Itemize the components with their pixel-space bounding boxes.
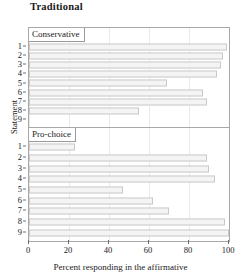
bar <box>29 218 225 225</box>
y-tick-label: 9 <box>18 115 22 124</box>
y-tick-mark <box>23 119 26 120</box>
y-tick-label: 4 <box>18 69 22 78</box>
x-tick-label: 20 <box>64 246 73 255</box>
y-tick-label: 2 <box>18 51 22 60</box>
bar <box>29 208 169 215</box>
y-tick-label: 9 <box>18 227 22 236</box>
strip-label-prochoice: Pro-choice <box>29 128 76 142</box>
bar <box>29 71 217 78</box>
bar-row <box>29 227 229 238</box>
bar <box>29 229 229 236</box>
y-tick-label: 8 <box>18 217 22 226</box>
x-tick-label: 80 <box>184 246 193 255</box>
x-tick-mark <box>148 240 149 244</box>
bar-row <box>29 116 229 125</box>
y-tick-label: 1 <box>18 142 22 151</box>
x-tick-mark <box>28 240 29 244</box>
y-tick-mark <box>23 73 26 74</box>
y-tick-label: 3 <box>18 163 22 172</box>
y-tick-mark <box>23 210 26 211</box>
bar <box>29 197 153 204</box>
bar-row <box>29 163 229 174</box>
bar <box>29 186 123 193</box>
y-tick-label: 2 <box>18 153 22 162</box>
y-tick-mark <box>23 64 26 65</box>
bar <box>29 80 167 87</box>
bar-row <box>29 153 229 164</box>
y-tick-mark <box>23 82 26 83</box>
bar-row <box>29 217 229 228</box>
x-tick-label: 100 <box>222 246 235 255</box>
y-tick-label: 3 <box>18 60 22 69</box>
bar <box>29 154 207 161</box>
bar <box>29 89 203 96</box>
bar-row <box>29 79 229 88</box>
y-tick-label: 7 <box>18 206 22 215</box>
bar-row <box>29 107 229 116</box>
y-tick-mark <box>23 178 26 179</box>
chart-title: Traditional <box>30 1 83 12</box>
bar-row <box>29 195 229 206</box>
x-tick-mark <box>68 240 69 244</box>
x-tick-mark <box>108 240 109 244</box>
y-tick-mark <box>23 189 26 190</box>
x-tick-label: 60 <box>144 246 153 255</box>
y-tick-mark <box>23 91 26 92</box>
x-axis: 020406080100 <box>28 240 230 262</box>
bar-row <box>29 142 229 153</box>
bar-row <box>29 51 229 60</box>
bar-row <box>29 174 229 185</box>
bar-row <box>29 185 229 196</box>
y-tick-mark <box>23 45 26 46</box>
x-tick-mark <box>228 240 229 244</box>
y-tick-mark <box>23 157 26 158</box>
panel-prochoice: Pro-choice <box>28 127 230 242</box>
y-tick-label: 8 <box>18 106 22 115</box>
bar <box>29 108 139 115</box>
y-tick-mark <box>23 231 26 232</box>
bar <box>29 52 223 59</box>
x-tick-label: 40 <box>104 246 113 255</box>
y-tick-mark <box>23 199 26 200</box>
y-tick-mark <box>23 54 26 55</box>
panel-conservative: Conservative <box>28 27 230 129</box>
bar-row <box>29 206 229 217</box>
x-tick-mark <box>188 240 189 244</box>
y-tick-mark <box>23 100 26 101</box>
bar <box>29 176 215 183</box>
x-axis-label: Percent responding in the affirmative <box>0 262 241 272</box>
y-tick-mark <box>23 146 26 147</box>
bar <box>29 165 209 172</box>
y-tick-mark <box>23 221 26 222</box>
bar <box>29 144 75 151</box>
y-tick-label: 5 <box>18 78 22 87</box>
bar <box>29 43 227 50</box>
bar-rows <box>29 128 229 241</box>
bar <box>29 62 221 69</box>
y-tick-label: 6 <box>18 87 22 96</box>
strip-label-conservative: Conservative <box>29 28 85 42</box>
bar-row <box>29 97 229 106</box>
y-tick-mark <box>23 110 26 111</box>
bar <box>29 98 207 105</box>
bar-row <box>29 70 229 79</box>
y-tick-label: 4 <box>18 174 22 183</box>
y-tick-label: 7 <box>18 97 22 106</box>
chart-figure: Traditional Statement 123456789 12345678… <box>0 0 241 279</box>
bar-row <box>29 60 229 69</box>
bar-row <box>29 42 229 51</box>
y-tick-mark <box>23 167 26 168</box>
y-tick-label: 1 <box>18 41 22 50</box>
x-tick-label: 0 <box>26 246 30 255</box>
y-tick-label: 6 <box>18 195 22 204</box>
y-tick-label: 5 <box>18 185 22 194</box>
bar-row <box>29 88 229 97</box>
bar-rows <box>29 28 229 128</box>
